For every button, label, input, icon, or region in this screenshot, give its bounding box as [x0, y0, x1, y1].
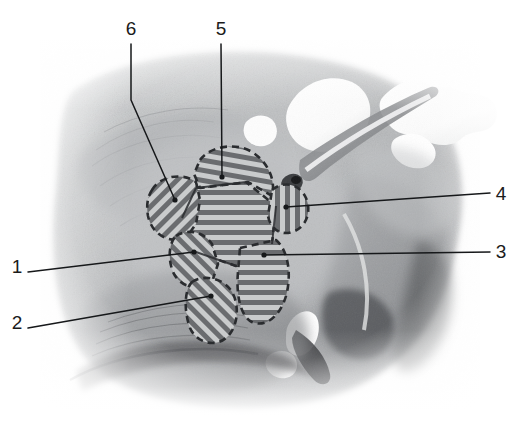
callout-4-label: 4 [496, 183, 507, 204]
callout-1-label: 1 [12, 256, 23, 277]
callout-3-label: 3 [496, 241, 507, 262]
callout-2-dot [208, 293, 213, 298]
lobe-6[interactable] [147, 176, 200, 239]
callout-5-label: 5 [216, 18, 227, 39]
anatomical-figure: 6 5 4 3 [0, 0, 518, 424]
callout-5-leader [221, 44, 222, 177]
callout-3-dot [261, 252, 266, 257]
callout-6-dot [172, 197, 177, 202]
callout-2-label: 2 [12, 312, 23, 333]
fade-right [418, 0, 518, 424]
callout-1-dot [191, 249, 196, 254]
lobe-2[interactable] [186, 278, 237, 343]
illustration-canvas: 6 5 4 3 [0, 0, 518, 424]
callout-6-label: 6 [126, 18, 137, 39]
callout-4-dot [283, 204, 288, 209]
callout-5-dot [219, 174, 224, 179]
